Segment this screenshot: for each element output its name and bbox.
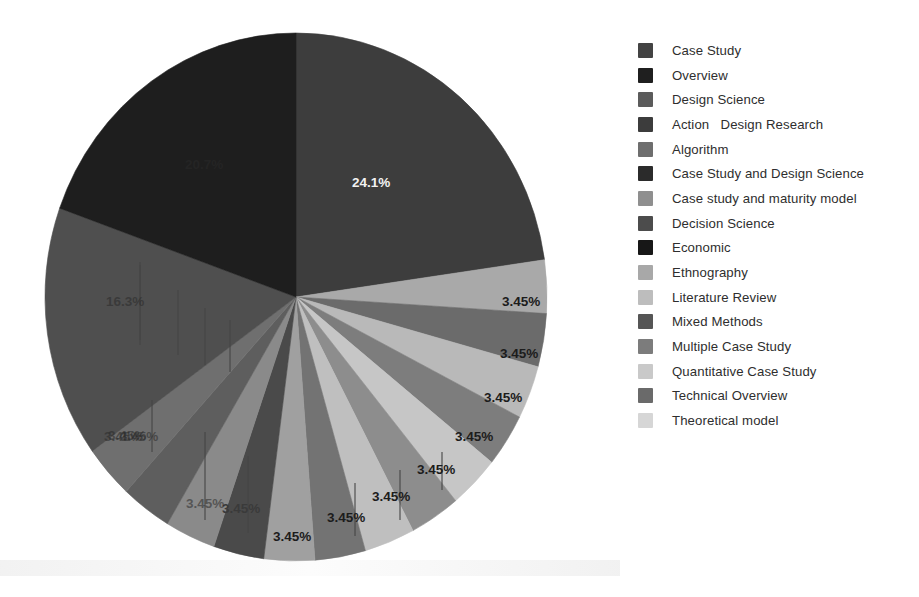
legend-item-label: Mixed Methods xyxy=(672,314,763,329)
legend-swatch-icon xyxy=(638,191,653,206)
legend-swatch-icon xyxy=(638,413,653,428)
slice-percentage-label: 16.3% xyxy=(106,294,144,309)
slice-percentage-label: 24.1% xyxy=(352,175,390,190)
slice-percentage-label: 3.45% xyxy=(372,489,410,504)
legend-item-label: Action Design Research xyxy=(672,117,823,132)
legend-item[interactable]: Technical Overview xyxy=(638,384,913,409)
pie-chart-figure: 24.1%3.45%3.45%3.45%3.45%3.45%3.45%3.45%… xyxy=(0,0,919,597)
legend-item[interactable]: Algorithm xyxy=(638,137,913,162)
legend-item[interactable]: Ethnography xyxy=(638,260,913,285)
legend-swatch-icon xyxy=(638,290,653,305)
slice-percentage-label: 3.45% xyxy=(484,390,522,405)
legend-item[interactable]: Economic xyxy=(638,236,913,261)
legend-item-label: Design Science xyxy=(672,92,765,107)
legend-item-label: Multiple Case Study xyxy=(672,339,791,354)
legend-item-label: Algorithm xyxy=(672,142,729,157)
legend-swatch-icon xyxy=(638,388,653,403)
legend-item[interactable]: Literature Review xyxy=(638,285,913,310)
legend-item-label: Decision Science xyxy=(672,216,775,231)
legend-item[interactable]: Case study and maturity model xyxy=(638,186,913,211)
slice-percentage-label: 3.45% xyxy=(186,496,224,511)
legend-item-label: Overview xyxy=(672,68,728,83)
legend-item-label: Case Study xyxy=(672,43,741,58)
legend-item[interactable]: Case Study and Design Science xyxy=(638,161,913,186)
legend-item-label: Case Study and Design Science xyxy=(672,166,864,181)
slice-percentage-label: 3.45% xyxy=(327,510,365,525)
legend-item[interactable]: Mixed Methods xyxy=(638,310,913,335)
legend-item-label: Theoretical model xyxy=(672,413,779,428)
pie-slice xyxy=(296,33,544,297)
legend-swatch-icon xyxy=(638,314,653,329)
legend-swatch-icon xyxy=(638,142,653,157)
pie-chart-svg: 24.1%3.45%3.45%3.45%3.45%3.45%3.45%3.45%… xyxy=(0,0,620,597)
legend-item-label: Quantitative Case Study xyxy=(672,364,817,379)
scan-artifact-band xyxy=(0,560,620,576)
legend-swatch-icon xyxy=(638,117,653,132)
legend-swatch-icon xyxy=(638,265,653,280)
legend-item[interactable]: Multiple Case Study xyxy=(638,334,913,359)
slice-percentage-label: 3.45% xyxy=(502,294,540,309)
legend-swatch-icon xyxy=(638,364,653,379)
legend-swatch-icon xyxy=(638,216,653,231)
legend-item[interactable]: Quantitative Case Study xyxy=(638,359,913,384)
slice-percentage-label: 3.45% xyxy=(455,429,493,444)
legend-item-label: Case study and maturity model xyxy=(672,191,857,206)
legend-item[interactable]: Action Design Research xyxy=(638,112,913,137)
legend-swatch-icon xyxy=(638,339,653,354)
chart-legend: Case StudyOverviewDesign ScienceAction D… xyxy=(638,38,913,433)
slice-percentage-label: 3.45% xyxy=(417,462,455,477)
legend-swatch-icon xyxy=(638,166,653,181)
pie-chart-area: 24.1%3.45%3.45%3.45%3.45%3.45%3.45%3.45%… xyxy=(0,0,620,597)
legend-swatch-icon xyxy=(638,43,653,58)
legend-item-label: Literature Review xyxy=(672,290,776,305)
legend-item[interactable]: Case Study xyxy=(638,38,913,63)
slice-percentage-label: 3.45% xyxy=(273,529,311,544)
legend-item[interactable]: Decision Science xyxy=(638,211,913,236)
slice-percentage-label: 3.45% xyxy=(500,346,538,361)
legend-swatch-icon xyxy=(638,92,653,107)
legend-item-label: Ethnography xyxy=(672,265,748,280)
legend-item[interactable]: Design Science xyxy=(638,87,913,112)
slice-percentage-label: 3.45% xyxy=(104,429,142,444)
legend-item[interactable]: Overview xyxy=(638,63,913,88)
slice-percentage-label: 3.45% xyxy=(222,501,260,516)
legend-item[interactable]: Theoretical model xyxy=(638,408,913,433)
legend-item-label: Economic xyxy=(672,240,731,255)
legend-swatch-icon xyxy=(638,68,653,83)
slice-percentage-label: 20.7% xyxy=(185,157,223,172)
legend-item-label: Technical Overview xyxy=(672,388,787,403)
legend-swatch-icon xyxy=(638,240,653,255)
